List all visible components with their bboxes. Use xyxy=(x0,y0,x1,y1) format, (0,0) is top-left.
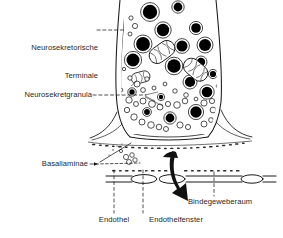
basal-lamina-upper xyxy=(88,141,252,149)
leader-basallaminae xyxy=(96,163,140,164)
label-neurosekretorische-terminale: Neurosekretorische Terminale xyxy=(6,25,98,99)
perivascular-vesicle-group xyxy=(119,149,137,164)
label-endothelfenster: Endothelfenster xyxy=(139,215,213,224)
endothelium xyxy=(106,175,276,184)
label-basallaminae: Basallaminae xyxy=(12,159,88,168)
label-neurosekretgranula: Neurosekretgranula xyxy=(4,90,92,99)
endothelial-fenestration xyxy=(157,174,159,184)
terminal-cytoplasm xyxy=(118,0,222,140)
basal-lamina-lower xyxy=(112,170,240,172)
diagram-canvas: Neurosekretorische Terminale Neurosekret… xyxy=(0,0,283,238)
label-bindegeweberaum: Bindegeweberaum xyxy=(188,197,282,206)
secretion-arrow xyxy=(163,151,188,201)
basal-lamina-lower-stipple xyxy=(112,170,240,172)
leader-basallaminae-arrowhead xyxy=(94,162,98,166)
label-terminale-line1: Neurosekretorische xyxy=(6,43,98,52)
label-terminale-line2: Terminale xyxy=(6,71,98,80)
label-endothel: Endothel xyxy=(88,215,140,224)
